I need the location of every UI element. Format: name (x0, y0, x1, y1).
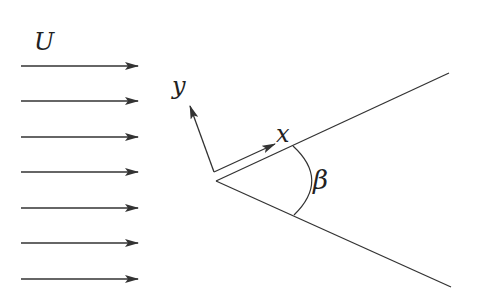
wedge-angle-label: β (312, 165, 328, 195)
wedge-flow-diagram: U x y β (0, 0, 478, 303)
freestream-arrows (21, 66, 138, 279)
y-axis-label: y (171, 72, 186, 100)
wedge-angle-arc (293, 146, 312, 215)
x-axis-label: x (276, 120, 290, 148)
wedge-lower-surface (216, 181, 451, 287)
freestream-velocity-label: U (34, 28, 55, 56)
y-axis-arrow-icon (190, 106, 214, 172)
wedge-upper-surface (216, 73, 449, 181)
